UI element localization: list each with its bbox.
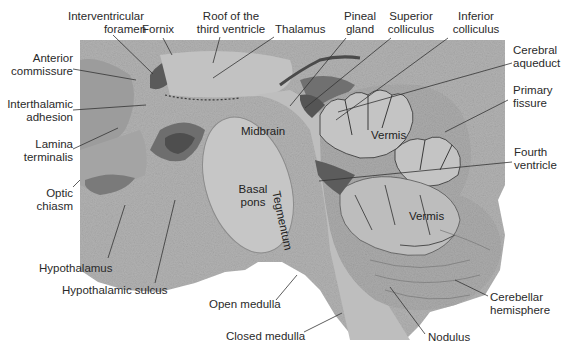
label-line: chiasm (0, 200, 73, 213)
label-line: Interventricular (47, 10, 165, 23)
label-anterior-commissure: Anterior commissure (0, 52, 73, 78)
label-midbrain: Midbrain (241, 125, 285, 138)
label-line: Nodulus (428, 331, 470, 344)
label-thalamus: Thalamus (275, 23, 326, 36)
label-vermis-lower: Vermis (409, 210, 444, 223)
label-line: Cerebral (513, 44, 560, 57)
label-line: Basal (233, 183, 273, 196)
label-basal-pons: Basal pons (233, 183, 273, 209)
label-roof-third-ventricle: Roof of the third ventricle (190, 10, 272, 36)
label-inferior-colliculus: Inferior colliculus (450, 10, 502, 36)
label-line: Closed medulla (226, 330, 305, 343)
label-line: Hypothalamic sulcus (62, 284, 167, 297)
label-line: Optic (0, 187, 73, 200)
label-line: commissure (0, 65, 73, 78)
label-line: hemisphere (490, 304, 550, 317)
label-line: pons (233, 196, 273, 209)
label-line: Pineal (340, 10, 380, 23)
label-hypothalamic-sulcus: Hypothalamic sulcus (62, 284, 167, 297)
label-line: Fornix (142, 23, 174, 36)
label-line: aqueduct (513, 57, 560, 70)
label-line: Open medulla (209, 298, 281, 311)
label-line: terminalis (0, 151, 73, 164)
label-open-medulla: Open medulla (209, 298, 281, 311)
label-pineal-gland: Pineal gland (340, 10, 380, 36)
label-hypothalamus: Hypothalamus (39, 262, 113, 275)
label-primary-fissure: Primary fissure (513, 84, 553, 110)
label-line: Fourth (514, 146, 557, 159)
label-line: colliculus (385, 23, 437, 36)
specimen-photo (0, 0, 569, 356)
brain-sagittal-diagram: Interventricular foramen Fornix Roof of … (0, 0, 569, 356)
label-closed-medulla: Closed medulla (226, 330, 305, 343)
label-line: Inferior (450, 10, 502, 23)
label-lamina-terminalis: Lamina terminalis (0, 138, 73, 164)
label-cerebral-aqueduct: Cerebral aqueduct (513, 44, 560, 70)
label-line: Superior (385, 10, 437, 23)
label-line: gland (340, 23, 380, 36)
label-fornix: Fornix (142, 23, 174, 36)
label-nodulus: Nodulus (428, 331, 470, 344)
label-optic-chiasm: Optic chiasm (0, 187, 73, 213)
label-line: adhesion (0, 111, 73, 124)
label-interthalamic-adhesion: Interthalamic adhesion (0, 98, 73, 124)
label-line: Lamina (0, 138, 73, 151)
label-line: Hypothalamus (39, 262, 113, 275)
label-line: colliculus (450, 23, 502, 36)
label-line: third ventricle (190, 23, 272, 36)
label-vermis-upper: Vermis (371, 129, 406, 142)
label-line: Roof of the (190, 10, 272, 23)
label-superior-colliculus: Superior colliculus (385, 10, 437, 36)
label-line: Interthalamic (0, 98, 73, 111)
label-line: ventricle (514, 159, 557, 172)
label-line: Thalamus (275, 23, 326, 36)
label-fourth-ventricle: Fourth ventricle (514, 146, 557, 172)
label-line: Cerebellar (490, 291, 550, 304)
label-line: fissure (513, 97, 553, 110)
label-line: Anterior (0, 52, 73, 65)
label-line: Primary (513, 84, 553, 97)
label-cerebellar-hemisphere: Cerebellar hemisphere (490, 291, 550, 317)
